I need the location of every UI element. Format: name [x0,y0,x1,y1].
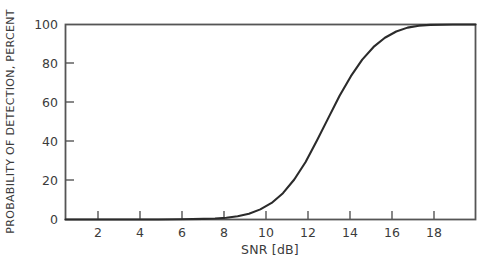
x-tick-marks [98,211,434,219]
x-tick-label: 2 [94,225,102,240]
x-tick-label: 18 [426,225,442,240]
y-tick-label: 20 [42,173,58,188]
y-tick-label: 60 [42,95,58,110]
x-tick-labels: 2 4 6 8 10 12 14 16 18 [94,225,442,240]
x-tick-label: 12 [300,225,316,240]
y-tick-label: 40 [42,134,58,149]
x-tick-label: 16 [384,225,400,240]
y-tick-label: 100 [34,17,58,32]
x-tick-label: 14 [342,225,358,240]
y-tick-label: 0 [50,212,58,227]
x-tick-label: 4 [136,225,144,240]
plot-frame [66,25,476,220]
x-tick-label: 8 [220,225,228,240]
chart-figure: 2 4 6 8 10 12 14 16 18 0 20 40 60 80 100… [0,0,493,261]
x-tick-label: 6 [178,225,186,240]
y-tick-label: 80 [42,56,58,71]
probability-of-detection-chart: 2 4 6 8 10 12 14 16 18 0 20 40 60 80 100… [0,0,493,261]
y-tick-labels: 0 20 40 60 80 100 [34,17,58,227]
x-tick-label: 10 [258,225,274,240]
x-axis-title: SNR [dB] [241,242,299,257]
y-axis-title: PROBABILITY OF DETECTION, PERCENT [4,9,17,233]
data-series-line [66,25,476,220]
